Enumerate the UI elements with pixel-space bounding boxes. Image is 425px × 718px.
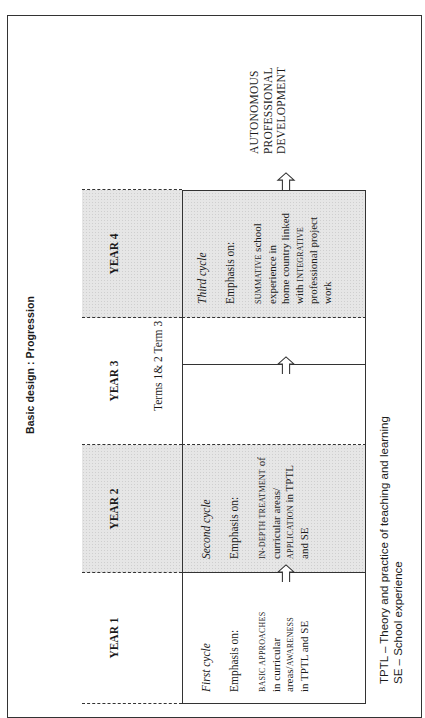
cycle-1-emphasis: Emphasis on: [228, 577, 242, 692]
year-boundary-dash [82, 189, 182, 190]
arrow-right-icon [276, 356, 296, 374]
outcome-label: AUTONOMOUS PROFESSIONAL DEVELOPMENT [248, 67, 289, 154]
cycle-divider-2-3 [182, 364, 366, 365]
terms-label: Terms 1& 2 Term 3 [152, 321, 164, 411]
cycle-1-name: First cycle [200, 577, 214, 692]
year-4-label: YEAR 4 [108, 190, 120, 318]
year-3-label: YEAR 3 [108, 317, 120, 445]
year-boundary-dash-inner [182, 317, 366, 318]
cycle-1-description: BASIC APPROACHES in curricular areas/AWA… [255, 577, 311, 692]
arrow-right-icon [276, 564, 296, 582]
cycle-2-emphasis: Emphasis on: [228, 369, 242, 559]
cycle-2-name: Second cycle [200, 369, 214, 559]
year-boundary-dash [82, 317, 182, 318]
cycle-3-emphasis: Emphasis on: [224, 192, 238, 304]
year-boundary-dash [82, 572, 182, 573]
year-boundary-dash [82, 703, 182, 704]
year-2-label: YEAR 2 [108, 445, 120, 573]
year-boundary-dash [82, 444, 182, 445]
cycle-3-description: SUMMATIVE school experience in home coun… [251, 192, 334, 304]
figure-title: Basic design : Progression [24, 296, 36, 434]
cycle-3: Third cycle Emphasis on: SUMMATIVE schoo… [196, 192, 334, 304]
cycle-2-description: IN-DEPTH TREATMENT of curricular areas/ … [255, 369, 311, 559]
abbreviation-legend: TPTL – Theory and practice of teaching a… [378, 416, 405, 684]
year-1-label: YEAR 1 [108, 574, 120, 702]
arrow-right-icon [276, 172, 296, 190]
cycle-3-name: Third cycle [196, 192, 210, 304]
cycle-1: First cycle Emphasis on: BASIC APPROACHE… [200, 577, 311, 692]
cycle-2: Second cycle Emphasis on: IN-DEPTH TREAT… [200, 369, 311, 559]
cycle-divider-1-2 [182, 572, 366, 573]
